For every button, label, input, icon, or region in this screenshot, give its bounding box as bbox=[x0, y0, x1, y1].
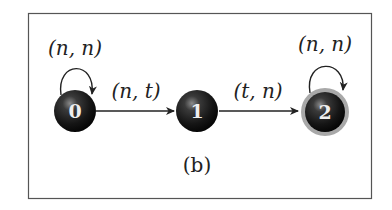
figure-caption: (b) bbox=[183, 153, 211, 177]
state-node-1: 1 bbox=[176, 90, 218, 132]
state-node-2-accepting: 2 bbox=[301, 88, 349, 136]
automaton-figure: (n, n) (n, t) (t, n) (n, n) 0 1 bbox=[0, 0, 392, 210]
state-label-1: 1 bbox=[190, 100, 203, 122]
edge-label-0-1: (n, t) bbox=[111, 79, 160, 103]
state-label-2: 2 bbox=[318, 101, 331, 123]
edge-label-0-0: (n, n) bbox=[48, 36, 102, 60]
edge-label-2-2: (n, n) bbox=[298, 32, 352, 56]
state-label-0: 0 bbox=[68, 100, 81, 122]
state-node-0: 0 bbox=[54, 90, 96, 132]
edge-label-1-2: (t, n) bbox=[233, 79, 282, 103]
